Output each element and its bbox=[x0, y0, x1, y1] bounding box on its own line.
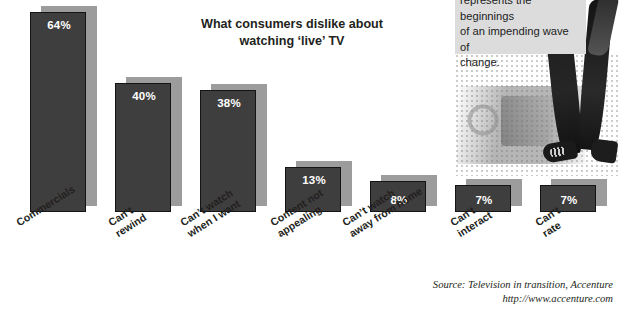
bar-value-label: 38% bbox=[201, 97, 257, 109]
source-line-2: http://www.accenture.com bbox=[433, 292, 613, 306]
bar-value-label: 64% bbox=[31, 19, 87, 31]
source-line-1: Source: Television in transition, Accent… bbox=[433, 278, 613, 292]
chart-page: represents the beginnings of an impendin… bbox=[0, 0, 621, 310]
bar-chart-plot: 64% 40% 38% 13% 8% bbox=[0, 0, 621, 310]
bar-commercials[interactable]: 64% bbox=[30, 12, 86, 212]
source-citation: Source: Television in transition, Accent… bbox=[433, 278, 613, 306]
bar-value-label: 40% bbox=[116, 90, 172, 102]
bar-value-label: 13% bbox=[286, 174, 342, 186]
bar-value-label: 7% bbox=[541, 194, 597, 206]
bar-cant-rewind[interactable]: 40% bbox=[115, 83, 171, 212]
